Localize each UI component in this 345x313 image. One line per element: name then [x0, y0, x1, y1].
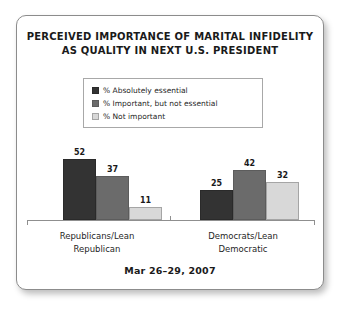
chart-x-axis: [27, 220, 315, 226]
chart-category-labels: Republicans/Lean Republican Democrats/Le…: [27, 230, 315, 262]
chart-title: PERCEIVED IMPORTANCE OF MARITAL INFIDELI…: [17, 30, 323, 58]
axis-baseline: [27, 220, 315, 221]
axis-tick-center: [170, 216, 171, 221]
legend-label-important-not-essential: % Important, but not essential: [103, 99, 217, 108]
bar-item: 37: [96, 138, 129, 220]
category-label-line: Republicans/Lean: [27, 230, 167, 243]
legend-label-absolutely-essential: % Absolutely essential: [103, 86, 188, 95]
bar-item: 25: [200, 138, 233, 220]
chart-footer-date: Mar 26–29, 2007: [17, 265, 323, 276]
bar-value-label: 25: [211, 179, 222, 188]
chart-card: PERCEIVED IMPORTANCE OF MARITAL INFIDELI…: [16, 15, 324, 290]
chart-plot-area: 52 37 11 25 42 32: [27, 138, 315, 220]
legend-swatch-icon-important-not-essential: [92, 100, 99, 107]
category-label-line: Democrats/Lean: [173, 230, 313, 243]
chart-legend: % Absolutely essential % Important, but …: [83, 78, 263, 128]
axis-tick-right: [314, 220, 315, 225]
category-label-republicans: Republicans/Lean Republican: [27, 230, 167, 256]
bar-rect: [96, 176, 129, 220]
bar-group-democrats: 25 42 32: [200, 138, 299, 220]
axis-tick-left: [27, 220, 28, 225]
category-label-line: Republican: [27, 243, 167, 256]
legend-swatch-icon-absolutely-essential: [92, 87, 99, 94]
chart-title-line-1: PERCEIVED IMPORTANCE OF MARITAL INFIDELI…: [17, 30, 323, 44]
legend-item-absolutely-essential: % Absolutely essential: [92, 84, 255, 96]
bar-value-label: 42: [244, 159, 255, 168]
bar-rect: [63, 159, 96, 220]
bar-group-republicans: 52 37 11: [63, 138, 162, 220]
legend-item-not-important: % Not important: [92, 110, 255, 122]
bar-item: 52: [63, 138, 96, 220]
bar-rect: [200, 190, 233, 220]
legend-swatch-icon-not-important: [92, 113, 99, 120]
bar-rect: [266, 182, 299, 220]
category-label-line: Democratic: [173, 243, 313, 256]
bar-item: 32: [266, 138, 299, 220]
bar-item: 11: [129, 138, 162, 220]
bar-rect: [233, 170, 266, 220]
chart-title-line-2: AS QUALITY IN NEXT U.S. PRESIDENT: [17, 44, 323, 58]
legend-label-not-important: % Not important: [103, 112, 165, 121]
bar-value-label: 32: [277, 171, 288, 180]
legend-item-important-not-essential: % Important, but not essential: [92, 97, 255, 109]
bar-value-label: 52: [74, 148, 85, 157]
bar-value-label: 37: [107, 165, 118, 174]
bar-rect: [129, 207, 162, 220]
category-label-democrats: Democrats/Lean Democratic: [173, 230, 313, 256]
bar-value-label: 11: [140, 196, 151, 205]
bar-item: 42: [233, 138, 266, 220]
